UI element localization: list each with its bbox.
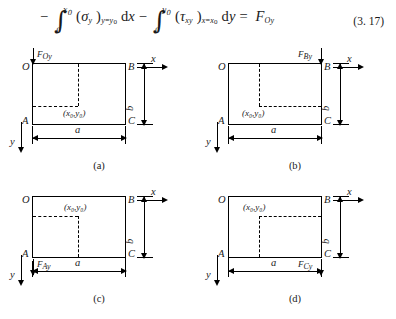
force-arrow-a <box>33 48 34 64</box>
axis-y-line-a <box>21 122 22 148</box>
figure-caption-c: (c) <box>6 293 192 304</box>
force-label-d: FCy <box>298 259 312 271</box>
dim-b-arrow-bottom-d <box>337 253 343 259</box>
corner-label-O-b: O <box>218 62 226 73</box>
dim-b-label-b: b <box>320 106 331 111</box>
equation-rhs: FOy <box>252 8 275 24</box>
dim-a-arrow-left-c <box>32 268 38 274</box>
dim-a-arrow-right-b <box>317 135 323 141</box>
dim-b-line-b <box>340 64 341 125</box>
figure-a: O B A C (x₀,y₀) FOy x y b a (a) <box>6 50 192 178</box>
dashed-horizontal-b <box>259 106 321 107</box>
dim-a-line-c <box>33 271 126 272</box>
corner-label-C-a: C <box>128 116 135 127</box>
dim-b-arrow-top-c <box>141 196 147 202</box>
dim-b-arrow-bottom-c <box>141 253 147 259</box>
dim-a-arrow-left-b <box>228 135 234 141</box>
dim-a-label-d: a <box>271 257 276 268</box>
force-arrow-head-a <box>30 59 36 65</box>
dashed-horizontal-a <box>33 106 78 107</box>
axis-y-line-d <box>217 255 218 281</box>
dim-a-label-a: a <box>75 124 80 135</box>
axis-y-line-c <box>21 255 22 281</box>
corner-label-O-a: O <box>22 62 30 73</box>
figure-c: O B A C (x₀,y₀) FAy x y b a (c) <box>6 183 192 311</box>
dim-b-arrow-bottom-b <box>337 120 343 126</box>
axis-x-arrowhead-a <box>162 64 168 70</box>
dim-b-label-d: b <box>320 239 331 244</box>
axis-x-arrowhead-d <box>358 197 364 203</box>
dashed-vertical-b <box>259 64 260 106</box>
dim-b-arrow-top-d <box>337 196 343 202</box>
equation-equals: = <box>239 8 247 24</box>
integral-1-upper-limit: x0 <box>63 6 72 17</box>
force-label-b: FBy <box>298 49 312 61</box>
point-label-b: (x₀,y₀) <box>242 108 265 118</box>
dim-b-line-a <box>144 64 145 125</box>
dim-a-arrow-right-a <box>121 135 127 141</box>
axis-y-label-d: y <box>206 269 211 280</box>
dim-b-line-d <box>340 197 341 258</box>
corner-label-A-b: A <box>218 116 224 127</box>
force-arrow-head-b <box>318 59 324 65</box>
equation-leading-minus: − <box>40 8 48 24</box>
textbook-page: − ∫x00 (σy )y=y0 dx − ∫y00 (τxy )x=x0 dy… <box>0 0 396 319</box>
dim-a-label-c: a <box>75 257 80 268</box>
integrand-sigma-y: (σy )y=y0 dx <box>72 8 135 24</box>
dim-a-arrow-right-c <box>121 268 127 274</box>
dashed-horizontal-c <box>33 216 78 217</box>
dim-a-line-d <box>229 271 322 272</box>
corner-label-A-c: A <box>22 249 28 260</box>
dim-b-arrow-top-a <box>141 63 147 69</box>
corner-label-B-d: B <box>324 195 330 206</box>
dim-a-arrow-left-d <box>228 268 234 274</box>
figure-caption-a: (a) <box>6 160 192 171</box>
axis-y-label-b: y <box>206 136 211 147</box>
force-label-c: FAy <box>37 259 51 271</box>
corner-label-B-c: B <box>128 195 134 206</box>
axis-y-arrowhead-a <box>18 147 24 153</box>
dashed-horizontal-d <box>259 216 321 217</box>
point-label-a: (x₀,y₀) <box>63 108 86 118</box>
dim-b-arrow-top-b <box>337 63 343 69</box>
dim-b-label-c: b <box>124 239 135 244</box>
corner-label-C-c: C <box>128 249 135 260</box>
corner-label-C-b: C <box>324 116 331 127</box>
point-label-c: (x₀,y₀) <box>64 202 87 212</box>
corner-label-C-d: C <box>324 249 331 260</box>
axis-x-arrowhead-c <box>162 197 168 203</box>
figure-caption-d: (d) <box>202 293 388 304</box>
axis-y-label-c: y <box>10 269 15 280</box>
corner-label-A-a: A <box>22 116 28 127</box>
dim-a-arrow-right-d <box>317 268 323 274</box>
integral-1-lower-limit: 0 <box>56 27 61 35</box>
integral-2-upper-limit: y0 <box>162 6 171 17</box>
figure-d: O B A C (x₀,y₀) FCy x y b a (d) <box>202 183 388 311</box>
axis-x-arrowhead-b <box>358 64 364 70</box>
integral-2-lower-limit: 0 <box>155 27 160 35</box>
dim-a-line-b <box>229 138 322 139</box>
dim-a-line-a <box>33 138 126 139</box>
force-arrow-b <box>321 48 322 64</box>
integrand-tau-xy: (τxy )x=x0 dy <box>171 8 236 24</box>
axis-y-label-a: y <box>10 136 15 147</box>
dashed-vertical-c <box>78 216 79 257</box>
dim-a-arrow-left-a <box>32 135 38 141</box>
figure-b: O B A C (x₀,y₀) FBy x y b a (b) <box>202 50 388 178</box>
dashed-vertical-a <box>78 64 79 106</box>
corner-label-B-b: B <box>324 62 330 73</box>
point-label-d: (x₀,y₀) <box>243 202 266 212</box>
axis-y-arrowhead-c <box>18 280 24 286</box>
axis-y-arrowhead-b <box>214 147 220 153</box>
dim-a-label-b: a <box>271 124 276 135</box>
corner-label-O-d: O <box>218 195 226 206</box>
dim-b-line-c <box>144 197 145 258</box>
dim-b-arrow-bottom-a <box>141 120 147 126</box>
equation-row: − ∫x00 (σy )y=y0 dx − ∫y00 (τxy )x=x0 dy… <box>0 6 396 42</box>
force-label-a: FOy <box>37 49 52 61</box>
corner-label-B-a: B <box>128 62 134 73</box>
equation-second-minus: − <box>139 8 147 24</box>
corner-label-O-c: O <box>22 195 30 206</box>
equation-number: (3. 17) <box>353 15 384 27</box>
equation-3-17: − ∫x00 (σy )y=y0 dx − ∫y00 (τxy )x=x0 dy… <box>40 8 274 26</box>
